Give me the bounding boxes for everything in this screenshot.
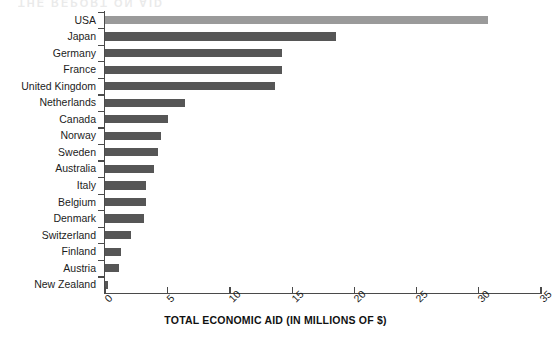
- bar-row: Norway: [0, 127, 551, 144]
- category-label: Belgium: [58, 195, 96, 209]
- bar: [105, 132, 161, 140]
- bar: [105, 148, 158, 156]
- y-axis-tick-mark: [98, 177, 105, 178]
- bar: [105, 181, 146, 189]
- bar: [105, 231, 131, 239]
- y-axis-tick-mark: [98, 28, 105, 29]
- bar: [105, 82, 275, 90]
- category-label: Italy: [77, 178, 96, 192]
- category-label: Austria: [63, 261, 96, 275]
- bar: [105, 214, 144, 222]
- category-label: New Zealand: [34, 277, 96, 291]
- bar-row: Belgium: [0, 194, 551, 211]
- category-label: Sweden: [58, 145, 96, 159]
- category-label: Denmark: [53, 211, 96, 225]
- category-label: Finland: [62, 244, 96, 258]
- bar-row: Sweden: [0, 144, 551, 161]
- bar-row: USA: [0, 12, 551, 29]
- bar-row: Denmark: [0, 210, 551, 227]
- category-label: Canada: [59, 112, 96, 126]
- bar-row: Italy: [0, 177, 551, 194]
- category-label: Germany: [53, 46, 96, 60]
- category-label: United Kingdom: [21, 79, 96, 93]
- bar: [105, 99, 185, 107]
- bar: [105, 264, 119, 272]
- y-axis-tick-mark: [98, 260, 105, 261]
- y-axis-tick-mark: [98, 78, 105, 79]
- bar: [105, 32, 336, 40]
- y-axis-tick-mark: [98, 210, 105, 211]
- bar-row: Switzerland: [0, 227, 551, 244]
- y-axis-tick-mark: [98, 160, 105, 161]
- y-axis-tick-mark: [98, 144, 105, 145]
- bar: [105, 248, 121, 256]
- bar: [105, 198, 146, 206]
- y-axis-tick-mark: [98, 61, 105, 62]
- bar-row: Canada: [0, 111, 551, 128]
- bar-row: Australia: [0, 160, 551, 177]
- bar: [105, 16, 488, 24]
- bar-row: Germany: [0, 45, 551, 62]
- bar-row: United Kingdom: [0, 78, 551, 95]
- y-axis-tick-mark: [98, 94, 105, 95]
- bar-row: Finland: [0, 243, 551, 260]
- y-axis-tick-mark: [98, 227, 105, 228]
- category-label: USA: [74, 13, 96, 27]
- bar: [105, 66, 282, 74]
- bar: [105, 115, 168, 123]
- y-axis-tick-mark: [98, 243, 105, 244]
- bar: [105, 49, 282, 57]
- bar: [105, 165, 154, 173]
- category-label: France: [63, 62, 96, 76]
- category-label: Switzerland: [42, 228, 96, 242]
- bar-row: France: [0, 61, 551, 78]
- bar-row: New Zealand: [0, 276, 551, 293]
- bar-row: Netherlands: [0, 94, 551, 111]
- y-axis-tick-mark: [98, 111, 105, 112]
- y-axis-tick-mark: [98, 127, 105, 128]
- category-label: Norway: [60, 128, 96, 142]
- y-axis-tick-mark: [98, 45, 105, 46]
- y-axis-tick-mark: [98, 194, 105, 195]
- category-label: Japan: [67, 29, 96, 43]
- category-label: Australia: [55, 161, 96, 175]
- y-axis-tick-mark: [98, 12, 105, 13]
- y-axis-tick-mark: [98, 276, 105, 277]
- bar-row: Austria: [0, 260, 551, 277]
- bar-row: Japan: [0, 28, 551, 45]
- category-label: Netherlands: [39, 95, 96, 109]
- x-axis-title: TOTAL ECONOMIC AID (IN MILLIONS OF $): [0, 314, 551, 326]
